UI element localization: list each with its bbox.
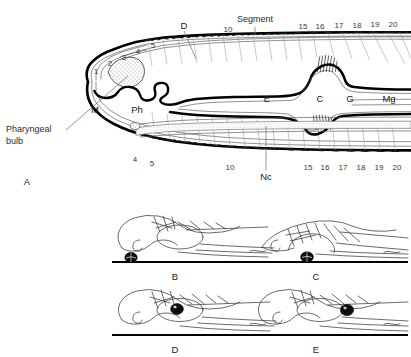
panel-c-head-outline [262,221,396,247]
segment-number-bottom-10: 10 [226,163,235,172]
panel-b-buccal-mass [157,225,203,249]
segment-number-top-2: 2 [108,59,113,68]
panel-label-c: C [313,271,320,282]
segment-number-bottom-5: 5 [150,159,155,168]
panel-c-particle [301,252,314,262]
panel-c-segment-hatching [286,223,360,246]
panel-b-particle [125,253,137,263]
panel-e-head-outline [258,290,380,321]
esophagus-label: E [264,93,270,104]
panel-label-d: D [172,344,179,355]
panel-e-body-lines [320,302,408,331]
panel-label-e: E [313,344,319,355]
panel-e-snout-underside [262,313,320,324]
segment-number-top-3: 3 [122,53,127,62]
crop-label: C [317,93,324,104]
nerve-cord-label: Nc [260,171,272,182]
segment-number-bottom-16: 16 [321,163,330,172]
panel-e-group: E [252,290,408,355]
segment-number-top-17: 17 [335,21,344,30]
segment-number-top-4: 4 [136,47,141,56]
panel-d-prostomial-curl [133,312,142,323]
panel-c-group: C [252,221,408,282]
segment-number-bottom-17: 17 [339,163,348,172]
segment-number-top-19: 19 [371,20,380,29]
panel-c-body-lines [316,232,408,258]
segment-number-bottom-4: 4 [133,155,138,164]
panel-d-particle [171,304,184,315]
gut-dorsal-margin [176,64,411,104]
panel-b-head-outline [118,215,240,248]
segment-number-bottom-19: 19 [375,163,384,172]
segment-number-top-15: 15 [299,22,308,31]
segment-number-bottom-18: 18 [357,163,366,172]
segment-number-bottom-15: 15 [304,163,313,172]
panel-b-snout-underside [122,240,177,251]
panel-b-group: B [112,215,274,281]
subpharyngeal-ganglion [130,122,140,129]
segment-number-top-20: 20 [389,20,398,29]
pharyngeal-bulb [108,57,145,87]
panel-c-prostomial-curl [271,240,280,251]
segment-label: Segment [237,14,274,24]
segment-number-top-16: 16 [316,22,325,31]
panel-e-prostomial-curl [273,312,282,323]
gizzard-label: G [346,93,353,104]
segment-number-top-10: 10 [224,25,233,34]
panel-a-group: Pharyngeal bulb Segment D Nc M Ph E C G … [6,14,411,186]
segment-number-top-5: 5 [151,41,156,50]
panel-b-prostomial-curl [133,240,142,251]
pharyngeal-bulb-label-line1: Pharyngeal [6,124,52,134]
dorsal-vessel-label: D [181,20,188,31]
pharynx-label: Ph [131,104,143,115]
midgut-label: Mg [382,93,395,104]
segment-number-top-1: 1 [94,67,99,76]
panel-c-buccal-mass [288,234,335,253]
ventral-vessel-line-2 [140,131,411,137]
midgut-fold-line [350,99,411,100]
panel-label-b: B [172,271,178,282]
segment-number-top-18: 18 [353,21,362,30]
pharyngeal-bulb-label-line2: bulb [6,136,23,146]
segment-number-bottom-20: 20 [393,163,402,172]
panel-label-a: A [24,176,31,187]
panel-d-snout-underside [122,313,180,324]
mouth-label: M [91,104,99,115]
panel-d-group: D [112,290,276,355]
anatomical-figure: Pharyngeal bulb Segment D Nc M Ph E C G … [0,0,411,357]
panel-e-particle [340,304,353,315]
